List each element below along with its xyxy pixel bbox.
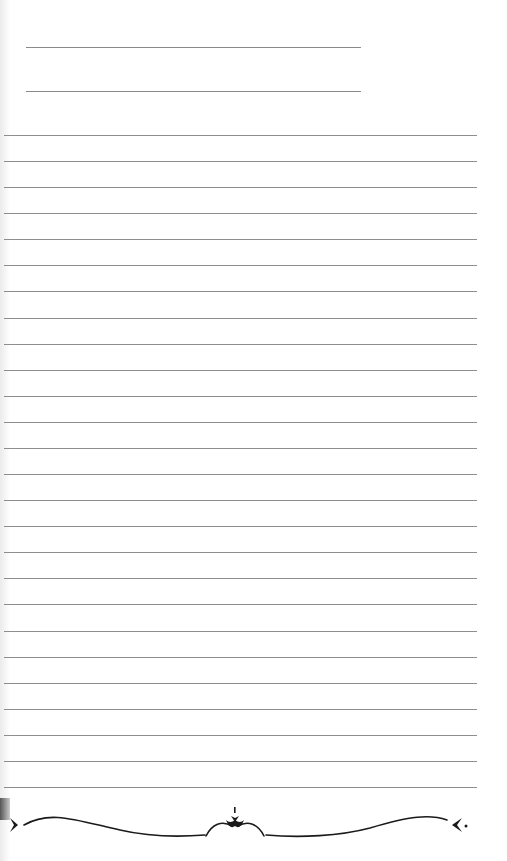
ruled-line[interactable] (4, 500, 477, 501)
ruled-line[interactable] (4, 761, 477, 762)
ruled-line[interactable] (4, 448, 477, 449)
ruled-line[interactable] (4, 422, 477, 423)
ruled-line[interactable] (4, 709, 477, 710)
ruled-line[interactable] (4, 213, 477, 214)
ruled-line[interactable] (4, 161, 477, 162)
ruled-line[interactable] (4, 526, 477, 527)
flourish-divider-icon (0, 790, 507, 840)
ruled-line[interactable] (4, 683, 477, 684)
ruled-line[interactable] (4, 239, 477, 240)
ruled-line[interactable] (4, 552, 477, 553)
header-line-1[interactable] (26, 47, 361, 48)
ruled-line[interactable] (4, 631, 477, 632)
ruled-line[interactable] (4, 474, 477, 475)
header-line-2[interactable] (26, 91, 361, 92)
ruled-line[interactable] (4, 318, 477, 319)
ruled-line[interactable] (4, 735, 477, 736)
ruled-line[interactable] (4, 291, 477, 292)
ruled-line[interactable] (4, 578, 477, 579)
ruled-line[interactable] (4, 344, 477, 345)
ruled-line[interactable] (4, 657, 477, 658)
ruled-line[interactable] (4, 787, 477, 788)
ruled-line[interactable] (4, 135, 477, 136)
ruled-line[interactable] (4, 396, 477, 397)
ruled-line[interactable] (4, 187, 477, 188)
page-edge-shadow (0, 0, 10, 861)
ruled-line[interactable] (4, 370, 477, 371)
ruled-line[interactable] (4, 604, 477, 605)
ruled-line[interactable] (4, 265, 477, 266)
